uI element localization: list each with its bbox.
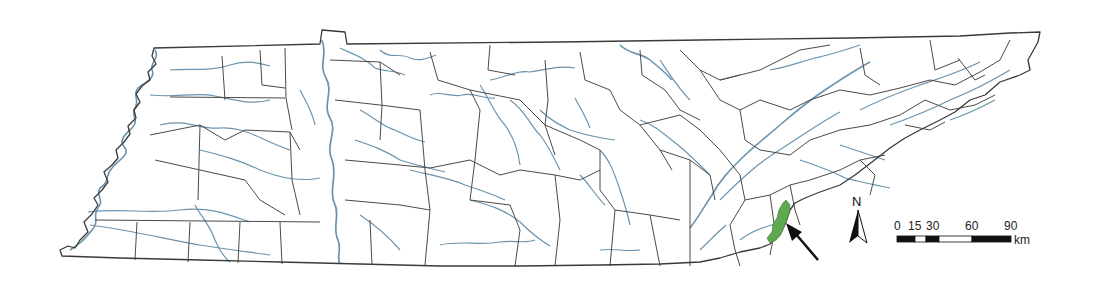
county-borders-layer [95,40,1010,266]
north-arrow-icon [849,210,867,243]
scale-label-15: 15 [908,219,921,233]
scale-bar [897,236,1011,242]
north-arrow-label: N [852,194,861,209]
scale-label-0: 0 [894,219,901,233]
rivers-layer [70,40,1010,264]
pointer-arrow-icon [786,223,818,260]
highlighted-study-area [767,200,790,243]
state-border [60,30,1040,266]
scale-label-60: 60 [965,219,978,233]
scale-unit-label: km [1014,233,1030,247]
scale-label-90: 90 [1004,219,1017,233]
scale-label-30: 30 [926,219,939,233]
tennessee-map [0,0,1094,284]
